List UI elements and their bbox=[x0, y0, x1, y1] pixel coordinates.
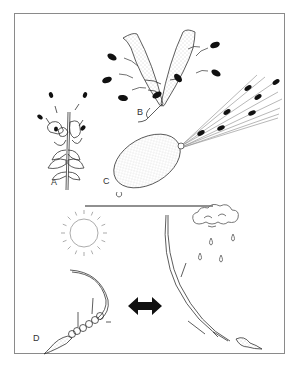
seed-dispersal-figure: A B C D bbox=[0, 0, 300, 365]
panel-c-fruit bbox=[104, 123, 189, 199]
sun-icon bbox=[61, 210, 107, 256]
label-d: D bbox=[33, 333, 40, 343]
panel-c-spray-lines bbox=[183, 75, 282, 147]
label-b: B bbox=[137, 107, 143, 117]
panel-b-pod bbox=[123, 30, 195, 122]
illustration-canvas bbox=[0, 0, 300, 365]
rain-cloud-icon bbox=[193, 204, 239, 262]
panel-d-straight-awn bbox=[165, 215, 262, 349]
label-a: A bbox=[51, 177, 57, 187]
label-c: C bbox=[103, 176, 110, 186]
double-arrow-icon bbox=[128, 297, 162, 315]
panel-d-coiled-awn bbox=[44, 270, 111, 354]
